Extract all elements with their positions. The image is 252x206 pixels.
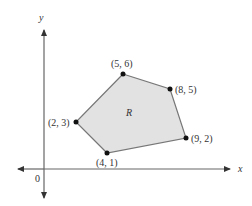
vertex-label: (8, 5): [175, 84, 197, 96]
origin-label: 0: [35, 173, 40, 184]
x-axis-label: x: [237, 163, 243, 174]
vertex-point: [121, 72, 126, 77]
vertex-point: [105, 151, 110, 156]
vertex-label: (9, 2): [191, 133, 213, 145]
vertex-label: (4, 1): [96, 157, 118, 169]
vertex-label: (5, 6): [111, 58, 133, 70]
vertex-point: [74, 120, 79, 125]
region-label: R: [125, 107, 132, 118]
y-axis-label: y: [38, 12, 44, 23]
vertex-point: [184, 136, 189, 141]
vertex-point: [168, 87, 173, 92]
feasible-region-diagram: y x 0 R (5, 6) (8, 5) (9, 2) (4, 1) (2, …: [0, 0, 252, 206]
vertex-label: (2, 3): [48, 117, 70, 129]
